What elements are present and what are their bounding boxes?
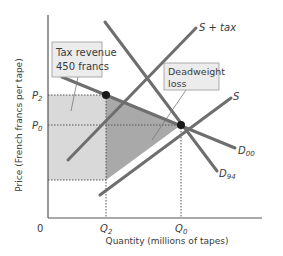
d00-label: D00 — [238, 145, 255, 158]
dwl-callout-line2: loss — [168, 78, 186, 89]
s-label: S — [233, 91, 240, 102]
y-tick-p0: P0 — [32, 120, 43, 133]
y-axis-title: Price (French francs per tape) — [14, 58, 24, 191]
x-tick-q0: Q0 — [175, 223, 188, 236]
s-tax-label: S + tax — [199, 22, 236, 33]
d94-label: D94 — [219, 168, 236, 181]
origin-label: 0 — [37, 223, 43, 234]
tax-revenue-area — [48, 95, 106, 180]
tax-equilibrium-point — [102, 91, 110, 99]
tax-callout-line1: Tax revenue — [55, 47, 117, 58]
no-tax-equilibrium-point — [177, 121, 185, 129]
x-tick-q2: Q2 — [100, 223, 113, 236]
dwl-callout-line1: Deadweight — [168, 66, 225, 77]
tax-callout-line2: 450 francs — [56, 61, 109, 72]
y-tick-p2: P2 — [32, 90, 43, 103]
x-axis-title: Quantity (millions of tapes) — [106, 236, 229, 246]
chart-canvas: Tax revenue 450 francs Deadweight loss S… — [0, 0, 283, 256]
